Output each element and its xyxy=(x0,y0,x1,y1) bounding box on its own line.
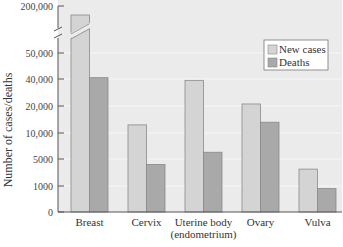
category-label: Uterine body xyxy=(175,216,233,228)
legend-swatch xyxy=(268,45,277,54)
bar-chart: 01000500010,00020,00040,00050,000200,000… xyxy=(0,0,343,247)
y-tick-label: 10,000 xyxy=(26,128,54,139)
y-axis-label: Number of cases/deaths xyxy=(1,72,15,187)
bar-new-cases xyxy=(185,80,204,212)
y-tick-label: 1000 xyxy=(33,181,53,192)
bar-new-cases xyxy=(242,104,261,212)
y-tick-label: 200,000 xyxy=(21,1,54,12)
x-axis-labels: BreastCervixUterine body(endometrium)Ova… xyxy=(75,216,330,241)
bar-deaths xyxy=(90,78,109,212)
category-label: Vulva xyxy=(304,216,330,228)
y-tick-label: 40,000 xyxy=(26,74,54,85)
legend-label: New cases xyxy=(279,43,326,55)
y-tick-label: 5000 xyxy=(33,154,53,165)
bar-deaths xyxy=(318,189,337,212)
bar-new-cases xyxy=(128,125,147,212)
category-label: Ovary xyxy=(247,216,275,228)
category-label: Cervix xyxy=(132,216,162,228)
legend: New casesDeaths xyxy=(264,40,328,70)
category-label: Breast xyxy=(75,216,103,228)
y-tick-label: 0 xyxy=(48,207,53,218)
y-tick-label: 20,000 xyxy=(26,101,54,112)
legend-label: Deaths xyxy=(279,56,310,68)
bar-deaths xyxy=(147,164,166,212)
category-label: (endometrium) xyxy=(171,228,237,241)
bar-deaths xyxy=(204,152,223,212)
bar-new-cases xyxy=(299,169,318,212)
legend-swatch xyxy=(268,58,277,67)
bar-new-cases xyxy=(71,15,90,212)
bar-deaths xyxy=(261,122,280,212)
y-tick-label: 50,000 xyxy=(26,48,54,59)
